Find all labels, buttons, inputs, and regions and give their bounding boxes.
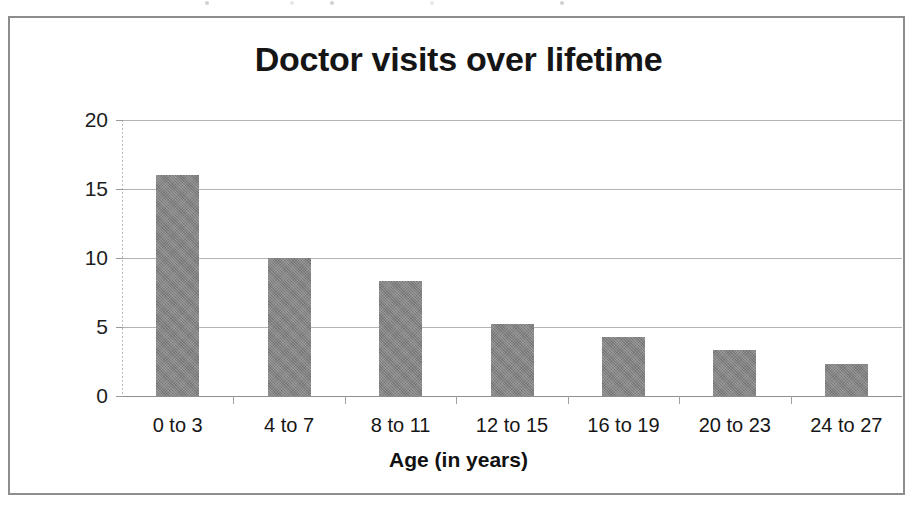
- x-tick-label-16-to-19: 16 to 19: [587, 414, 659, 437]
- chart-figure-frame: Doctor visits over lifetime 05101520 0 t…: [8, 16, 905, 495]
- gridline-y-0: [122, 396, 902, 397]
- x-axis-title: Age (in years): [10, 448, 907, 472]
- bar-0-to-3: [156, 175, 199, 396]
- y-tick-mark-15: [116, 189, 123, 190]
- x-tick-mark-3: [456, 396, 457, 404]
- x-tick-mark-5: [679, 396, 680, 404]
- bar-24-to-27: [825, 364, 868, 396]
- scan-speck: [430, 1, 434, 5]
- x-tick-label-20-to-23: 20 to 23: [699, 414, 771, 437]
- plot-area: 05101520 0 to 34 to 78 to 1112 to 1516 t…: [122, 120, 902, 396]
- x-tick-label-0-to-3: 0 to 3: [153, 414, 203, 437]
- y-tick-label-0: 0: [96, 384, 108, 408]
- x-tick-mark-6: [791, 396, 792, 404]
- bar-8-to-11: [379, 281, 422, 396]
- scan-speck: [330, 1, 334, 5]
- y-tick-label-10: 10: [85, 246, 108, 270]
- scan-speck: [290, 1, 294, 5]
- bar-12-to-15: [491, 324, 534, 396]
- x-tick-mark-2: [345, 396, 346, 404]
- x-tick-mark-1: [233, 396, 234, 404]
- gridline-y-20: [122, 120, 902, 121]
- chart-title: Doctor visits over lifetime: [10, 40, 907, 79]
- y-tick-label-15: 15: [85, 177, 108, 201]
- scan-speck: [560, 1, 564, 5]
- y-tick-mark-0: [116, 396, 123, 397]
- bar-20-to-23: [713, 350, 756, 396]
- x-tick-label-8-to-11: 8 to 11: [371, 414, 431, 437]
- bar-16-to-19: [602, 337, 645, 396]
- gridline-y-10: [122, 258, 902, 259]
- x-tick-label-4-to-7: 4 to 7: [264, 414, 314, 437]
- gridline-y-15: [122, 189, 902, 190]
- scan-artifact-specks: [0, 0, 916, 14]
- y-tick-label-20: 20: [85, 108, 108, 132]
- x-tick-label-24-to-27: 24 to 27: [810, 414, 882, 437]
- y-tick-mark-20: [116, 120, 123, 121]
- x-tick-label-12-to-15: 12 to 15: [476, 414, 548, 437]
- x-tick-mark-4: [568, 396, 569, 404]
- y-tick-mark-5: [116, 327, 123, 328]
- bar-4-to-7: [268, 258, 311, 396]
- y-tick-label-5: 5: [96, 315, 108, 339]
- y-tick-mark-10: [116, 258, 123, 259]
- scan-speck: [205, 1, 209, 5]
